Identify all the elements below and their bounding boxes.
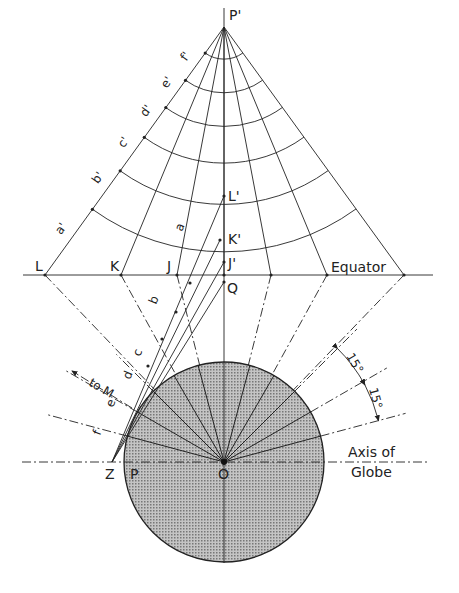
- projection-dashed-5: [293, 275, 404, 390]
- parallel-point-5: [204, 51, 207, 54]
- projection-dashed-0: [45, 275, 155, 390]
- ray-label-0: a: [172, 221, 188, 233]
- label-angle-upper: 15°: [343, 351, 366, 376]
- ray-point-0: [146, 364, 149, 367]
- ray-point-1: [160, 337, 163, 340]
- arc-label-5: f': [177, 49, 193, 63]
- cone-meridian-0: [45, 27, 224, 275]
- arc-label-3: d': [137, 102, 155, 119]
- center-point-o: [221, 459, 227, 465]
- cone-meridian-2: [177, 27, 224, 275]
- equator-point-3: [222, 273, 225, 276]
- projection-dashed-4: [272, 275, 327, 374]
- ray-label-5: f: [90, 427, 105, 437]
- ray-point-3: [188, 281, 191, 284]
- projection-dashed-3: [248, 275, 271, 365]
- label-o: O: [218, 466, 229, 482]
- conic-projection-diagram: P' L' K' J' Q L K J Equator O P Z Axis o…: [0, 0, 459, 593]
- ray-label-4: e: [103, 397, 119, 409]
- label-l-prime: L': [228, 188, 240, 204]
- parallel-point-2: [143, 136, 146, 139]
- ray-point-2: [174, 310, 177, 313]
- construction-point-1: [218, 238, 221, 241]
- construction-point-0: [222, 194, 225, 197]
- cone-meridian-6: [224, 27, 404, 275]
- label-k-prime: K': [228, 231, 241, 247]
- ray-label-1: b: [146, 294, 162, 306]
- parallel-point-0: [91, 208, 94, 211]
- projection-dashed-1: [121, 275, 176, 374]
- construction-point-2: [222, 260, 225, 263]
- parallel-point-1: [119, 169, 122, 172]
- label-q: Q: [227, 280, 238, 296]
- parallel-point-4: [184, 79, 187, 82]
- label-axis-of: Axis of: [348, 444, 396, 460]
- arc-label-0: a': [52, 220, 70, 237]
- arc-label-2: c': [115, 134, 132, 150]
- ray-label-3: d: [120, 369, 136, 381]
- label-equator: Equator: [331, 259, 386, 275]
- label-l: L: [35, 258, 43, 274]
- parallel-point-3: [164, 106, 167, 109]
- ray-extension-1: [48, 415, 128, 436]
- label-angle-lower: 15°: [366, 386, 385, 410]
- label-j: J: [166, 258, 171, 274]
- label-j-prime: J': [227, 255, 236, 271]
- label-globe: Globe: [351, 464, 392, 480]
- label-k: K: [110, 258, 120, 274]
- cone-meridian-1: [121, 27, 224, 275]
- arc-label-4: e': [158, 74, 176, 91]
- arc-label-1: b': [89, 169, 107, 186]
- ray-extension-2: [321, 413, 406, 436]
- cone-projection-grid: [43, 27, 405, 277]
- ray-label-2: c: [130, 347, 145, 358]
- label-p: P: [130, 466, 138, 482]
- construction-point-3: [222, 280, 225, 283]
- label-p-prime: P': [229, 7, 241, 23]
- label-z: Z: [105, 466, 115, 482]
